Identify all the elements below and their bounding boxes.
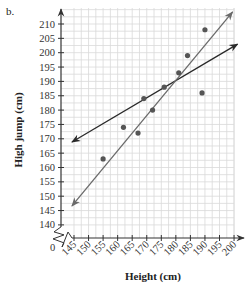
y-tick-label: 150 bbox=[39, 191, 55, 202]
data-point bbox=[135, 130, 140, 135]
data-point bbox=[162, 85, 167, 90]
data-point bbox=[185, 53, 190, 58]
data-point bbox=[101, 156, 106, 161]
y-tick-label: 180 bbox=[39, 105, 55, 116]
data-point bbox=[202, 27, 207, 32]
data-point bbox=[121, 125, 126, 130]
y-axis-title: High jump (cm) bbox=[12, 92, 25, 168]
y-tick-label: 155 bbox=[39, 176, 55, 187]
data-point bbox=[141, 96, 146, 101]
y-axis-ticks: 1401451501551601651701751801851901952002… bbox=[39, 19, 64, 231]
y-tick-label: 145 bbox=[39, 205, 55, 216]
x-tick-label: 200 bbox=[220, 239, 239, 258]
y-tick-label: 170 bbox=[39, 133, 55, 144]
y-tick-label: 200 bbox=[39, 47, 55, 58]
y-tick-label: 195 bbox=[39, 62, 55, 73]
origin-label: 0 bbox=[50, 242, 55, 253]
x-axis-title: Height (cm) bbox=[125, 270, 181, 283]
y-tick-label: 190 bbox=[39, 76, 55, 87]
y-tick-label: 205 bbox=[39, 33, 55, 44]
y-tick-label: 175 bbox=[39, 119, 55, 130]
y-tick-label: 185 bbox=[39, 90, 55, 101]
data-point bbox=[199, 90, 204, 95]
part-label: b. bbox=[6, 5, 15, 17]
scatter-chart: b. 1401451501551601651701751801851901952… bbox=[0, 0, 250, 286]
line-shallow bbox=[72, 44, 238, 142]
data-point bbox=[176, 70, 181, 75]
y-tick-label: 165 bbox=[39, 148, 55, 159]
data-point bbox=[150, 108, 155, 113]
y-tick-label: 210 bbox=[39, 19, 55, 30]
y-tick-label: 160 bbox=[39, 162, 55, 173]
y-tick-label: 140 bbox=[39, 219, 55, 230]
